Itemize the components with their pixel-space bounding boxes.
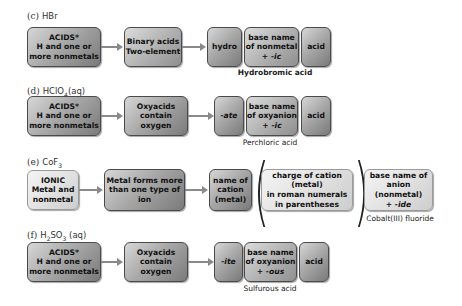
ate-text: -ate <box>220 111 237 121</box>
arrow-icon <box>188 261 209 263</box>
base-line-2: of oxyanion <box>247 111 297 121</box>
suffix-ic: -ic <box>271 52 281 61</box>
nonmetal-base-box: base name of nonmetal + -ic <box>244 27 299 67</box>
row-c-letter: (c) <box>27 11 39 21</box>
formula-part: (aq) <box>68 86 85 96</box>
charge-line-3: in parentheses <box>275 200 339 210</box>
ionic-desc-1: Metal and <box>32 185 75 195</box>
cation-name-box: name of cation (metal) <box>209 169 252 211</box>
arrow-icon <box>185 189 203 191</box>
acid-text: acid <box>307 42 325 52</box>
base-line-3: + -ous <box>257 267 284 277</box>
formula-part: (aq) <box>66 230 86 240</box>
plus: + <box>262 52 271 61</box>
ite-box: -ite <box>214 242 243 282</box>
ate-box: -ate <box>214 96 244 136</box>
plus: + <box>386 200 395 209</box>
acids-desc-2: more nonmetals <box>29 267 99 277</box>
row-f-formula: H2SO3 (aq) <box>40 230 86 240</box>
oxy-desc: contain oxygen <box>125 111 187 130</box>
metal-line-1: Metal forms more <box>106 176 182 186</box>
cation-line-3: (metal) <box>215 195 246 205</box>
anion-line-3: + -ide <box>386 200 411 210</box>
anion-box: base name of anion (nonmetal) + -ide <box>364 169 433 211</box>
row-e-label: (e) CoF3 <box>27 157 62 169</box>
oxy-desc: contain oxygen <box>125 257 187 276</box>
result-sulfurous-acid: Sulfurous acid <box>235 284 305 293</box>
result-perchloric-acid: Perchloric acid <box>230 138 310 147</box>
acids-title: ACIDS* <box>49 102 79 112</box>
binary-acids-box: Binary acids Two-element <box>124 27 182 67</box>
acid-box-f: acid <box>299 242 329 282</box>
acids-title: ACIDS* <box>49 33 79 43</box>
row-e-formula: CoF3 <box>42 157 62 167</box>
anion-line-2: anion (nonmetal) <box>365 180 432 199</box>
hydro-text: hydro <box>212 42 237 52</box>
formula-part: HClO <box>43 86 64 96</box>
acids-desc-1: H and one or <box>37 257 92 267</box>
base-line-1: base name <box>249 102 295 112</box>
suffix-ic: -ic <box>271 121 281 130</box>
row-c-formula: HBr <box>42 11 58 21</box>
arrow-icon <box>182 46 201 48</box>
result-cobalt-iii-fluoride: Cobalt(III) fluoride <box>360 214 440 223</box>
acid-text: acid <box>305 257 323 267</box>
oxyanion-base-box-d: base name of oxyanion + -ic <box>246 96 298 136</box>
row-f-label: (f) H2SO3 (aq) <box>27 230 86 242</box>
formula-sub: 3 <box>58 162 62 169</box>
acids-box-f: ACIDS* H and one or more nonmetals <box>27 242 101 282</box>
oxyacids-box-d: Oxyacids contain oxygen <box>124 96 188 136</box>
row-c-label: (c) HBr <box>27 11 58 21</box>
binary-desc: Two-element <box>126 47 181 57</box>
oxyacids-box-f: Oxyacids contain oxygen <box>124 242 188 282</box>
acid-text: acid <box>307 111 325 121</box>
acids-box-c: ACIDS* H and one or more nonmetals <box>27 27 101 67</box>
ionic-desc-2: nonmetal <box>33 195 73 205</box>
acid-box-d: acid <box>301 96 331 136</box>
arrow-icon <box>101 261 118 263</box>
acid-box-c: acid <box>301 27 331 67</box>
acids-desc-2: more nonmetals <box>29 52 99 62</box>
charge-line-2: in roman numerals <box>267 190 348 200</box>
oxy-title: Oxyacids <box>137 102 176 112</box>
binary-title: Binary acids <box>127 37 179 47</box>
base-line-3: + -ic <box>262 121 281 131</box>
ionic-title: IONIC <box>41 176 65 186</box>
acids-desc-1: H and one or <box>37 42 92 52</box>
base-line-2: of oxyanion <box>246 257 296 267</box>
row-d-formula: HClO4(aq) <box>43 86 85 96</box>
ite-text: -ite <box>221 257 236 267</box>
charge-line-1: charge of cation (metal) <box>262 171 352 190</box>
anion-line-1: base name of <box>370 171 428 181</box>
ionic-box: IONIC Metal and nonmetal <box>27 170 79 210</box>
row-d-letter: (d) <box>27 86 40 96</box>
base-line-3: + -ic <box>262 52 281 62</box>
charge-box: charge of cation (metal) in roman numera… <box>261 169 353 211</box>
suffix-ous: -ous <box>266 267 284 276</box>
arrow-icon <box>188 115 209 117</box>
plus: + <box>257 267 266 276</box>
arrow-icon <box>79 189 98 191</box>
metal-line-2: than one type of ion <box>105 185 184 204</box>
formula-part: SO <box>50 230 62 240</box>
row-f-letter: (f) <box>27 230 37 240</box>
acids-title: ACIDS* <box>49 248 79 258</box>
hydro-box: hydro <box>207 27 242 67</box>
base-line-1: base name <box>247 248 293 258</box>
metal-forms-box: Metal forms more than one type of ion <box>104 169 185 211</box>
arrow-icon <box>101 46 118 48</box>
arrow-icon <box>101 115 118 117</box>
acids-desc-2: more nonmetals <box>29 121 99 131</box>
formula-part: CoF <box>42 157 58 167</box>
row-e-letter: (e) <box>27 157 39 167</box>
acids-box-d: ACIDS* H and one or more nonmetals <box>27 96 101 136</box>
result-hydrobromic-acid: Hydrobromic acid <box>230 68 320 77</box>
acids-desc-1: H and one or <box>37 111 92 121</box>
base-line-1: base name <box>248 33 294 43</box>
cation-line-2: cation <box>217 185 243 195</box>
oxy-title: Oxyacids <box>137 248 176 258</box>
base-line-2: of nonmetal <box>246 42 298 52</box>
oxyanion-base-box-f: base name of oxyanion + -ous <box>244 242 297 282</box>
suffix-ide: -ide <box>395 200 411 209</box>
cation-line-1: name of <box>213 176 248 186</box>
